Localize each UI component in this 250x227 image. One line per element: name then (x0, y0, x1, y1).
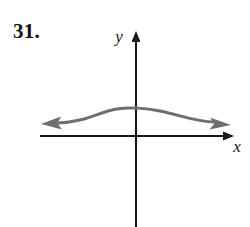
y-axis-label: y (113, 27, 123, 46)
graph-canvas: y x (0, 0, 250, 227)
y-axis-arrowhead-icon (132, 31, 141, 42)
x-axis-label: x (232, 137, 241, 156)
exercise-figure: 31. y x (0, 0, 250, 227)
curve-right-arrowhead-icon (210, 118, 232, 130)
